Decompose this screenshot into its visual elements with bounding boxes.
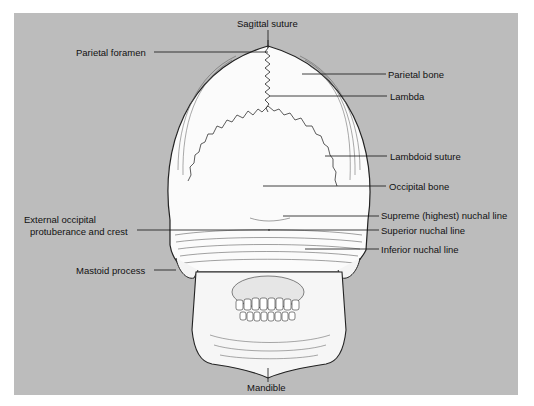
label-lambdoid-suture: Lambdoid suture xyxy=(390,151,461,162)
label-parietal-bone: Parietal bone xyxy=(388,69,444,80)
label-occipital-bone: Occipital bone xyxy=(389,181,449,192)
label-inferior-nuchal-line: Inferior nuchal line xyxy=(381,244,459,255)
label-mandible: Mandible xyxy=(247,382,286,393)
label-mastoid-process: Mastoid process xyxy=(76,265,145,276)
label-external-occipital-2: protuberance and crest xyxy=(30,226,128,237)
label-superior-nuchal-line: Superior nuchal line xyxy=(381,225,465,236)
label-sagittal-suture: Sagittal suture xyxy=(237,18,298,29)
label-external-occipital-1: External occipital xyxy=(24,214,96,225)
label-parietal-foramen: Parietal foramen xyxy=(76,47,146,58)
label-supreme-nuchal-line: Supreme (highest) nuchal line xyxy=(381,210,507,221)
cranium-outline xyxy=(168,46,370,272)
label-lambda: Lambda xyxy=(390,91,424,102)
skull-illustration xyxy=(0,0,534,406)
